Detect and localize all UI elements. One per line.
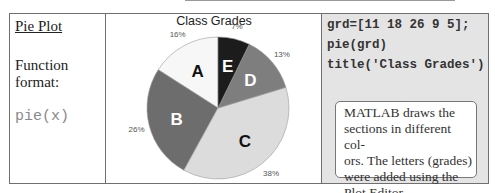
note-line: ors. The letters (grades) [344,153,472,169]
explanation-note: MATLAB draws the sections in different c… [335,101,477,178]
chart-column: Class Grades A16%B26%C38%D13%E7% [106,14,322,183]
section-heading: Pie Plot [15,18,62,35]
code-line: title('Class Grades') [327,58,485,72]
pie-chart: A16%B26%C38%D13%E7% [106,14,322,183]
reference-table: Pie Plot Function format: pie(x) Class G… [9,13,489,184]
format-label-line: format: [15,74,68,91]
slice-grade-label: C [239,132,251,151]
note-line: MATLAB draws the [344,105,472,121]
page-top-rule [185,0,455,1]
description-column: Pie Plot Function format: pie(x) [10,14,106,183]
slice-grade-label: D [244,71,256,90]
note-line: Plot Editor. [344,185,472,193]
slice-percent-label: 16% [170,30,186,39]
slice-grade-label: E [222,57,233,76]
format-label: Function format: [15,57,68,91]
code-line: grd=[11 18 26 9 5]; [327,18,470,32]
slice-percent-label: 26% [129,125,145,134]
note-line: sections in different col- [344,121,472,153]
slice-grade-label: A [191,62,203,81]
code-line: pie(grd) [327,38,387,52]
format-label-line: Function [15,57,68,74]
slice-percent-label: 7% [231,22,243,31]
slice-grade-label: B [171,110,183,129]
note-line: were added using the [344,169,472,185]
function-syntax: pie(x) [15,108,69,125]
slice-percent-label: 38% [263,169,279,178]
slice-percent-label: 13% [274,50,290,59]
code-column: grd=[11 18 26 9 5]; pie(grd) title('Clas… [322,14,488,183]
